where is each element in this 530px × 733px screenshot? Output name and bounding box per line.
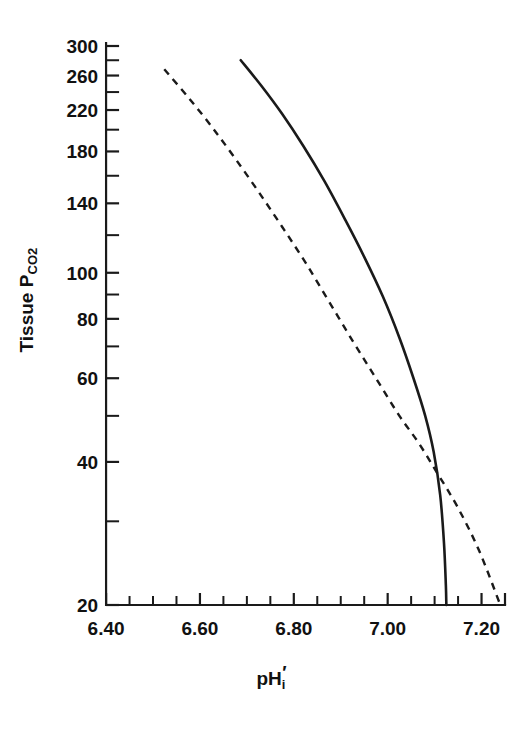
x-axis-title-prime: ′ [282, 663, 286, 684]
y-axis-title: Tissue PCO2 [16, 200, 40, 400]
y-tick-label: 260 [66, 66, 98, 87]
axes-group [106, 43, 505, 605]
y-axis-title-main: Tissue P [16, 275, 37, 353]
axis-lines [106, 43, 505, 605]
y-tick-label: 180 [66, 141, 98, 162]
y-axis-title-subscript: CO2 [25, 248, 40, 275]
data-series-group [164, 60, 500, 605]
x-axis-tick-labels: 6.406.606.807.007.20 [88, 618, 500, 639]
x-tick-label: 6.40 [88, 618, 125, 639]
y-tick-label: 300 [66, 36, 98, 57]
y-tick-label: 40 [77, 452, 98, 473]
y-tick-label: 220 [66, 100, 98, 121]
y-tick-label: 100 [66, 263, 98, 284]
y-axis-ticks [106, 46, 119, 605]
y-axis-tick-labels: 30026022018014010080604020 [66, 36, 98, 616]
x-axis-title-inner: pHi′ [245, 668, 286, 692]
y-tick-label: 140 [66, 193, 98, 214]
data-curve-dashed [164, 69, 500, 605]
x-tick-label: 6.60 [181, 618, 218, 639]
y-tick-label: 20 [77, 595, 98, 616]
x-tick-label: 6.80 [275, 618, 312, 639]
figure-container: 30026022018014010080604020 6.406.606.807… [0, 0, 530, 733]
y-tick-label: 80 [77, 309, 98, 330]
x-axis-title-main: pH [257, 668, 282, 689]
x-tick-label: 7.20 [463, 618, 500, 639]
chart-plot: 30026022018014010080604020 6.406.606.807… [0, 0, 530, 733]
x-axis-title: pHi′ [0, 668, 530, 692]
data-curve-solid [241, 60, 447, 605]
x-tick-label: 7.00 [369, 618, 406, 639]
y-tick-label: 60 [77, 368, 98, 389]
